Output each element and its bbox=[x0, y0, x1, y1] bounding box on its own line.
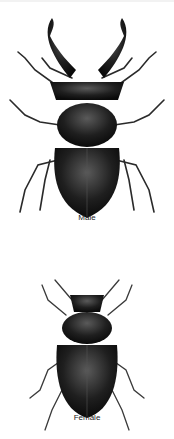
male-label: Male bbox=[0, 213, 174, 222]
male-beetle-illustration bbox=[0, 0, 174, 225]
female-label: Female bbox=[0, 413, 174, 422]
